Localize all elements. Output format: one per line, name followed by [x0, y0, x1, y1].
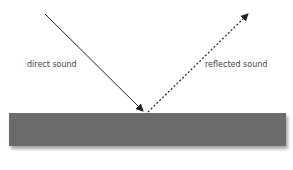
reflected-sound-label: reflected sound: [205, 60, 267, 69]
reflecting-surface: [9, 113, 286, 146]
direct-sound-label: direct sound: [27, 60, 77, 69]
